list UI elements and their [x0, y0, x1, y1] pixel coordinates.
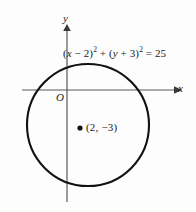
- equation-minus-term: − 2): [72, 47, 93, 59]
- origin-label: O: [56, 92, 64, 103]
- x-axis-label: x: [178, 83, 183, 94]
- equation-plus: + (: [97, 47, 113, 59]
- equation-plus-term: + 3): [118, 47, 139, 59]
- equation-equals-value: = 25: [143, 47, 166, 59]
- center-point-label: (2, −3): [86, 122, 117, 133]
- y-axis-arrowhead: [63, 24, 71, 31]
- circle-geometry-figure: (x − 2)2 + (y + 3)2 = 25 O x y (2, −3): [0, 0, 196, 212]
- y-axis-label: y: [63, 13, 68, 24]
- center-point-dot: [77, 125, 82, 130]
- figure-canvas: [0, 0, 196, 212]
- circle-equation-label: (x − 2)2 + (y + 3)2 = 25: [63, 48, 166, 59]
